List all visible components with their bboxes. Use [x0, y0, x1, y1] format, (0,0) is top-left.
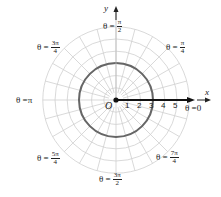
angle-label-3pi-over-4: θ = 3π4: [37, 40, 60, 55]
angle-label-5pi-over-4: θ = 5π4: [37, 151, 60, 166]
label-prefix: θ =: [37, 154, 49, 163]
angle-label-7pi-over-4: θ = 7π4: [156, 150, 179, 165]
angle-label-pi-over-2: θ = π2: [103, 19, 122, 34]
radial-tick-5: 5: [173, 101, 177, 110]
angle-label-pi: θ = π: [16, 96, 32, 105]
fraction: 5π4: [51, 151, 60, 166]
angle-label-0: θ = 0: [185, 104, 201, 113]
angle-label-pi-over-4: θ = π4: [166, 40, 185, 55]
origin-label: O: [105, 100, 112, 111]
y-axis-label: y: [104, 3, 108, 13]
y-arrow-head-icon: [114, 6, 119, 12]
label-prefix: θ =: [103, 22, 115, 31]
radial-tick-1: 1: [125, 101, 129, 110]
angle-label-3pi-over-2: θ = 3π2: [99, 172, 122, 187]
label-prefix: θ =: [99, 175, 111, 184]
radial-tick-2: 2: [137, 101, 141, 110]
fraction: 3π2: [113, 172, 122, 187]
fraction: π4: [180, 40, 186, 55]
label-value: π: [28, 96, 33, 105]
denominator: 4: [172, 158, 176, 165]
denominator: 2: [115, 180, 119, 187]
radial-tick-3: 3: [149, 101, 153, 110]
fraction: 3π4: [51, 40, 60, 55]
x-arrow-head-icon: [205, 98, 211, 103]
label-prefix: θ =: [166, 43, 178, 52]
denominator: 4: [53, 48, 57, 55]
denominator: 2: [118, 27, 122, 34]
fraction: 7π4: [170, 150, 179, 165]
fraction: π2: [117, 19, 123, 34]
label-prefix: θ =: [37, 43, 49, 52]
label-prefix: θ =: [185, 104, 197, 113]
denominator: 4: [53, 159, 57, 166]
radial-tick-4: 4: [161, 101, 165, 110]
label-prefix: θ =: [16, 96, 28, 105]
origin-point: [113, 97, 118, 102]
label-prefix: θ =: [156, 153, 168, 162]
label-value: 0: [197, 104, 202, 113]
denominator: 4: [181, 48, 185, 55]
x-axis-label: x: [205, 87, 209, 97]
